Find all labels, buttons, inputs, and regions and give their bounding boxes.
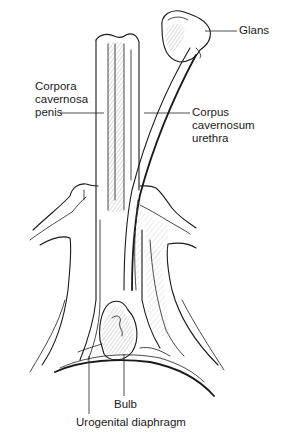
label-line: urethra (192, 132, 255, 145)
label-line: Corpus (192, 106, 255, 119)
label-urogenital-diaphragm: Urogenital diaphragm (76, 416, 186, 429)
label-bulb: Bulb (114, 398, 137, 411)
label-line: Urogenital diaphragm (76, 416, 186, 429)
label-glans-line: Glans (239, 24, 269, 37)
label-line: cavernosum (192, 119, 255, 132)
label-line: Bulb (114, 398, 137, 411)
pubic-bone-left (30, 184, 98, 372)
label-corpora-cavernosa-penis: Corpora cavernosa penis (35, 80, 88, 119)
diagram-drawing (0, 0, 281, 434)
label-glans: Glans (239, 24, 269, 37)
label-line: penis (35, 106, 88, 119)
anatomical-diagram: Glans Corpora cavernosa penis Corpus cav… (0, 0, 281, 434)
label-corpus-cavernosum-urethra: Corpus cavernosum urethra (192, 106, 255, 145)
label-line: cavernosa (35, 93, 88, 106)
bulb-shape (100, 301, 137, 359)
urogenital-diaphragm-shape (55, 344, 214, 396)
label-line: Corpora (35, 80, 88, 93)
